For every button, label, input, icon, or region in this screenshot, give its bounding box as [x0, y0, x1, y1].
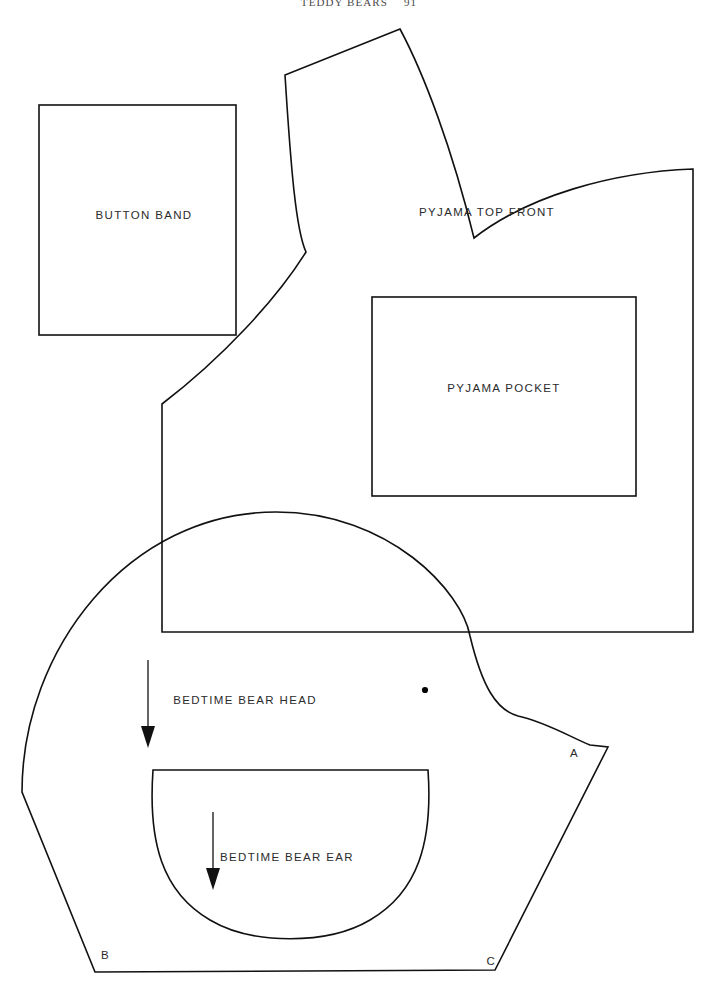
- grain-line-ear-arrow-icon: [206, 812, 220, 890]
- piece-button-band[interactable]: BUTTON BAND: [39, 105, 236, 335]
- bedtime-bear-ear-label: BEDTIME BEAR EAR: [220, 851, 354, 863]
- piece-bedtime-bear-head[interactable]: BEDTIME BEAR HEAD: [22, 512, 608, 972]
- marker-c-label: C: [487, 955, 496, 967]
- marker-b-label: B: [101, 949, 109, 961]
- pyjama-pocket-label: PYJAMA POCKET: [447, 382, 560, 394]
- pyjama-top-front-outline[interactable]: [162, 29, 693, 632]
- pyjama-pocket-outline[interactable]: [372, 297, 636, 496]
- piece-pyjama-top-front[interactable]: PYJAMA TOP FRONT: [162, 29, 693, 632]
- bedtime-bear-head-outline[interactable]: [22, 512, 608, 972]
- pattern-sheet-page: TEDDY BEARS91 BUTTON BAND PYJAMA TOP FRO…: [0, 0, 718, 996]
- grain-line-ear-arrowhead: [206, 868, 220, 890]
- piece-pyjama-pocket[interactable]: PYJAMA POCKET: [372, 297, 636, 496]
- pyjama-top-front-label: PYJAMA TOP FRONT: [419, 206, 555, 218]
- placement-dot-icon: [422, 687, 428, 693]
- bedtime-bear-head-label: BEDTIME BEAR HEAD: [173, 694, 317, 706]
- marker-a-label: A: [570, 747, 578, 759]
- piece-bedtime-bear-ear[interactable]: BEDTIME BEAR EAR: [152, 770, 429, 939]
- grain-line-head-arrow-icon: [141, 660, 155, 748]
- pattern-diagram: BUTTON BAND PYJAMA TOP FRONT PYJAMA POCK…: [0, 0, 718, 996]
- grain-line-head-arrowhead: [141, 726, 155, 748]
- button-band-label: BUTTON BAND: [95, 209, 192, 221]
